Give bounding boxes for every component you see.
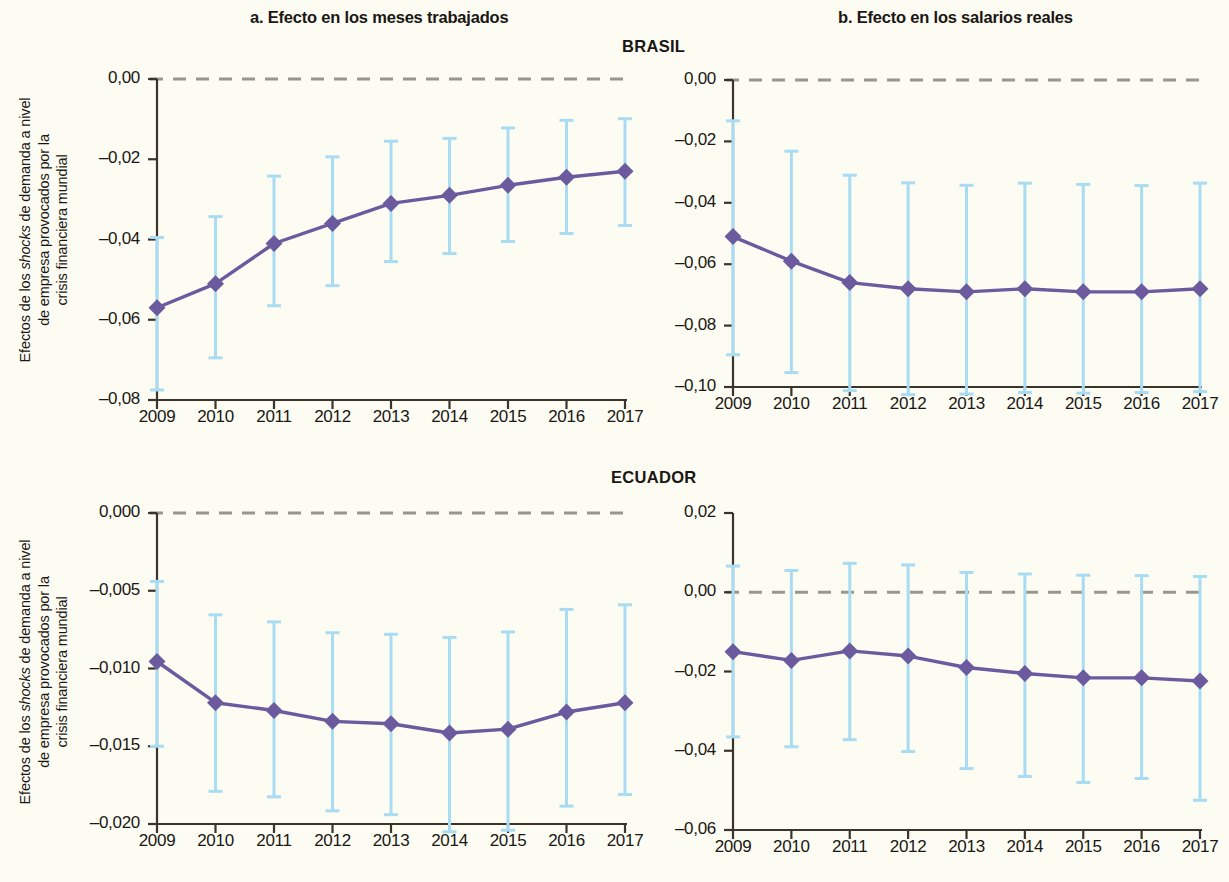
y-axis-tick-label: –0,005 <box>40 580 140 600</box>
x-axis-tick-label: 2013 <box>359 407 423 427</box>
chart-svg-brasil-salarios <box>0 0 1229 440</box>
y-axis-tick-label: –0,06 <box>616 819 716 839</box>
y-axis-tick-label: –0,10 <box>616 376 716 396</box>
x-axis-tick-label: 2012 <box>301 831 365 851</box>
y-axis-tick-label: –0,02 <box>616 130 716 150</box>
x-axis-tick-label: 2012 <box>301 407 365 427</box>
x-axis-tick-label: 2012 <box>876 394 940 414</box>
y-axis-tick-label: 0,00 <box>616 69 716 89</box>
x-axis-tick-label: 2015 <box>1051 837 1115 857</box>
y-axis-tick-label: –0,010 <box>40 658 140 678</box>
x-axis-tick-label: 2009 <box>701 837 765 857</box>
x-axis-tick-label: 2011 <box>818 837 882 857</box>
chart-ecuador-salarios-reales <box>0 440 1229 882</box>
x-axis-tick-label: 2011 <box>242 407 306 427</box>
data-point-marker <box>900 648 917 665</box>
y-axis-tick-label: –0,06 <box>616 253 716 273</box>
x-axis-tick-label: 2017 <box>593 407 657 427</box>
data-point-marker <box>1133 283 1150 300</box>
data-point-marker <box>841 642 858 659</box>
x-axis-tick-label: 2017 <box>1168 394 1229 414</box>
x-axis-tick-label: 2014 <box>418 831 482 851</box>
data-point-marker <box>841 274 858 291</box>
y-axis-tick-label: –0,04 <box>616 740 716 760</box>
data-point-marker <box>900 280 917 297</box>
x-axis-tick-label: 2015 <box>1051 394 1115 414</box>
y-axis-tick-label: 0,00 <box>616 581 716 601</box>
data-point-marker <box>958 659 975 676</box>
data-point-marker <box>1192 673 1209 690</box>
data-point-marker <box>1016 665 1033 682</box>
x-axis-tick-label: 2017 <box>1168 837 1229 857</box>
x-axis-tick-label: 2014 <box>418 407 482 427</box>
data-point-marker <box>725 643 742 660</box>
x-axis-tick-label: 2009 <box>125 831 189 851</box>
x-axis-tick-label: 2016 <box>535 831 599 851</box>
x-axis-tick-label: 2016 <box>1110 394 1174 414</box>
x-axis-tick-label: 2015 <box>476 407 540 427</box>
chart-svg-ecuador-salarios <box>0 440 1229 882</box>
x-axis-tick-label: 2014 <box>993 394 1057 414</box>
y-axis-tick-label: 0,000 <box>40 502 140 522</box>
y-axis-tick-label: 0,02 <box>616 502 716 522</box>
y-axis-tick-label: –0,04 <box>616 192 716 212</box>
data-point-marker <box>1133 669 1150 686</box>
x-axis-tick-label: 2011 <box>818 394 882 414</box>
x-axis-tick-label: 2014 <box>993 837 1057 857</box>
x-axis-tick-label: 2009 <box>125 407 189 427</box>
x-axis-tick-label: 2015 <box>476 831 540 851</box>
x-axis-tick-label: 2010 <box>184 407 248 427</box>
data-point-marker <box>958 283 975 300</box>
x-axis-tick-label: 2010 <box>184 831 248 851</box>
x-axis-tick-label: 2013 <box>935 394 999 414</box>
x-axis-tick-label: 2013 <box>935 837 999 857</box>
data-point-marker <box>783 253 800 270</box>
x-axis-tick-label: 2010 <box>759 394 823 414</box>
x-axis-tick-label: 2012 <box>876 837 940 857</box>
x-axis-tick-label: 2011 <box>242 831 306 851</box>
x-axis-tick-label: 2013 <box>359 831 423 851</box>
y-axis-tick-label: –0,02 <box>616 661 716 681</box>
x-axis-tick-label: 2009 <box>701 394 765 414</box>
y-axis-tick-label: –0,015 <box>40 735 140 755</box>
y-axis-tick-label: –0,020 <box>40 813 140 833</box>
y-axis-tick-label: –0,06 <box>40 309 140 329</box>
x-axis-tick-label: 2016 <box>535 407 599 427</box>
data-point-marker <box>1192 280 1209 297</box>
y-axis-tick-label: 0,00 <box>40 68 140 88</box>
y-axis-tick-label: –0,08 <box>616 315 716 335</box>
chart-brasil-salarios-reales <box>0 0 1229 440</box>
data-point-marker <box>1075 669 1092 686</box>
data-point-marker <box>1016 280 1033 297</box>
y-axis-tick-label: –0,02 <box>40 148 140 168</box>
y-axis-tick-label: –0,08 <box>40 389 140 409</box>
x-axis-tick-label: 2016 <box>1110 837 1174 857</box>
x-axis-tick-label: 2010 <box>759 837 823 857</box>
data-point-marker <box>783 652 800 669</box>
y-axis-tick-label: –0,04 <box>40 229 140 249</box>
data-point-marker <box>725 228 742 245</box>
data-point-marker <box>1075 283 1092 300</box>
